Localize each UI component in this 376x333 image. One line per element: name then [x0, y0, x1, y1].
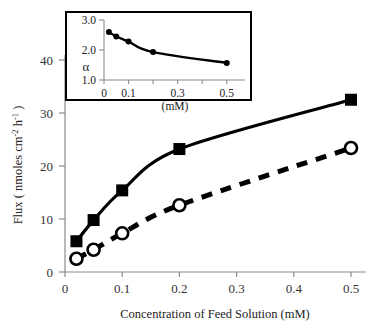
- y-axis-tick-label: 0: [47, 265, 54, 280]
- inset-x-axis-title: (mM): [162, 100, 189, 113]
- inset-y-axis-tick-labels: 1.02.03.0: [82, 14, 97, 86]
- x-axis-tick-label: 0.2: [171, 281, 187, 296]
- data-point-circle: [345, 142, 357, 154]
- data-point-square: [173, 143, 185, 155]
- x-axis-tick-label: 0.4: [286, 281, 303, 296]
- x-axis-tick-label: 0: [62, 281, 69, 296]
- inset-data-point: [224, 60, 230, 66]
- inset-data-point: [150, 49, 156, 55]
- figure-container: 010203040 00.10.20.30.40.5 Concentration…: [0, 0, 376, 333]
- y-axis-tick-label: 40: [40, 53, 53, 68]
- inset-y-axis-tick-label: 3.0: [82, 14, 97, 26]
- inset-x-axis-tick-label: 0.3: [170, 87, 185, 99]
- inset-chart: 1.02.03.0 00.10.30.5 α (mM): [66, 12, 251, 113]
- data-point-circle: [116, 227, 128, 239]
- inset-x-axis-tick-label: 0.5: [220, 87, 235, 99]
- y-axis-title-suffix: ): [11, 106, 25, 113]
- data-point-circle: [88, 244, 100, 256]
- data-point-circle: [70, 253, 82, 265]
- y-axis-tick-label: 20: [40, 159, 53, 174]
- flux-concentration-chart: 010203040 00.10.20.30.40.5 Concentration…: [0, 0, 376, 333]
- inset-x-axis-tick-label: 0: [101, 87, 107, 99]
- y-axis-title: Flux ( nmoles cm-2 h-1 ): [10, 106, 25, 225]
- inset-x-axis-tick-label: 0.1: [121, 87, 136, 99]
- x-axis-title: Concentration of Feed Solution (mM): [120, 307, 310, 321]
- inset-y-axis-tick-label: 2.0: [82, 44, 97, 56]
- y-axis-tick-label: 30: [40, 106, 53, 121]
- inset-y-axis-title: α: [83, 59, 90, 74]
- inset-data-point: [126, 39, 132, 45]
- y-axis-tick-label: 10: [40, 212, 53, 227]
- inset-data-point: [113, 34, 119, 40]
- y-axis-title-sup-1: -2: [10, 129, 20, 136]
- data-point-square: [88, 214, 100, 226]
- data-point-square: [70, 235, 82, 247]
- inset-data-point: [106, 29, 112, 35]
- x-axis-tick-label: 0.1: [114, 281, 130, 296]
- data-point-square: [345, 94, 357, 106]
- y-axis-title-prefix: Flux ( nmoles cm: [11, 136, 25, 224]
- x-axis-tick-label: 0.3: [228, 281, 244, 296]
- inset-y-axis-tick-label: 1.0: [82, 74, 97, 86]
- data-point-square: [116, 184, 128, 196]
- x-axis-tick-label: 0.5: [343, 281, 359, 296]
- data-point-circle: [173, 199, 185, 211]
- y-axis-title-sup-2: -1: [10, 113, 20, 120]
